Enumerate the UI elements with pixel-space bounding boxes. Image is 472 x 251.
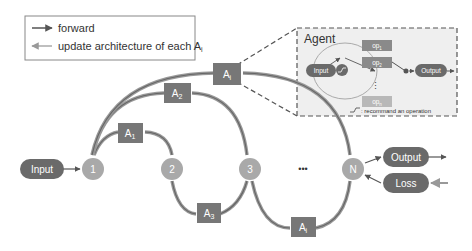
svg-text:Input: Input — [314, 67, 329, 75]
zoom-connector-bottom — [237, 82, 297, 116]
diagram-stage: forward update architecture of each Ai A… — [0, 0, 472, 251]
agent-panel: Agent Input op1 op2 ⋮ opn Output : recom… — [297, 28, 457, 116]
recommend-note: : recommand an operation — [361, 108, 431, 114]
diagram-canvas: forward update architecture of each Ai A… — [0, 0, 472, 251]
legend: forward update architecture of each Ai — [25, 16, 203, 60]
svg-text:Input: Input — [31, 164, 53, 175]
svg-text:Loss: Loss — [395, 178, 416, 189]
legend-update-label: update architecture of each Ai — [58, 40, 203, 53]
agent-panel-title: Agent — [304, 32, 336, 46]
zoom-connector-top — [237, 28, 297, 65]
svg-text:1: 1 — [90, 164, 96, 175]
legend-forward-label: forward — [58, 22, 95, 34]
ellipsis-dots: ••• — [298, 164, 307, 174]
svg-text:N: N — [349, 164, 356, 175]
svg-text:Output: Output — [391, 152, 421, 163]
op-vdots: ⋮ — [371, 81, 380, 91]
svg-text:3: 3 — [247, 164, 253, 175]
svg-text:Output: Output — [421, 67, 441, 75]
svg-text:2: 2 — [169, 164, 175, 175]
